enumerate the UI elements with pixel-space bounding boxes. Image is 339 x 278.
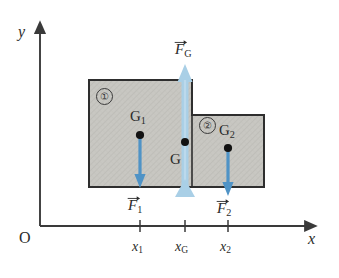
point-label-G1: G1 bbox=[130, 109, 146, 126]
force-label-F2: F 2 bbox=[217, 201, 231, 218]
force-label-F1: F 1 bbox=[128, 198, 142, 215]
part-badge-2: ② bbox=[199, 117, 216, 134]
part-badge-1: ① bbox=[96, 88, 113, 105]
body-shape bbox=[89, 80, 264, 187]
tick-label-x2: x2 bbox=[220, 240, 231, 256]
physics-diagram: y x O x1 xG x2 ① ② G1 G G2 F 1 F bbox=[0, 0, 339, 278]
y-axis-label: y bbox=[18, 24, 25, 40]
force-label-FG: F G bbox=[175, 42, 192, 59]
tick-label-x1: x1 bbox=[132, 240, 143, 256]
diagram-canvas bbox=[0, 0, 339, 278]
origin-label: O bbox=[19, 230, 31, 246]
x-axis-label: x bbox=[308, 231, 315, 247]
point-label-G2: G2 bbox=[219, 123, 235, 140]
point-label-G: G bbox=[170, 152, 181, 167]
tick-label-xG: xG bbox=[175, 240, 188, 256]
